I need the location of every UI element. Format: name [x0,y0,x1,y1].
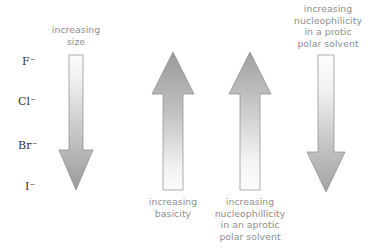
arrow-basicity [152,52,194,190]
caption-increasing-nucleophilicity-protic: increasing nucleophilicity in a protic p… [279,3,377,49]
arrow-nucleophilicity-aprotic [229,52,271,190]
ion-label-bromide: Br⁻ [18,139,38,152]
halide-trends-diagram: F⁻ Cl⁻ Br⁻ I⁻ increasing size increasing… [0,0,380,250]
caption-increasing-nucleophilicity-aprotic: increasing nucleophillicity in an aproti… [203,196,297,242]
ion-label-fluoride: F⁻ [22,55,36,68]
ion-label-chloride: Cl⁻ [18,95,36,108]
caption-increasing-size: increasing size [31,24,121,47]
arrow-nucleophilicity-protic [307,55,345,192]
ion-label-iodide: I⁻ [25,180,36,193]
arrow-size [59,55,93,190]
